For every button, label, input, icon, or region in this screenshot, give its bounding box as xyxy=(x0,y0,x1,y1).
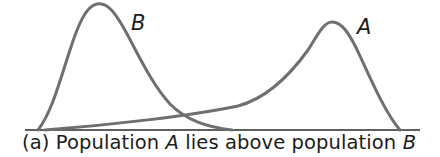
caption-middle: lies above population xyxy=(179,131,403,154)
caption-prefix: (a) Population xyxy=(22,131,166,154)
figure-caption: (a) Population A lies above population B xyxy=(22,133,432,153)
distribution-figure: B A (a) Population A lies above populati… xyxy=(0,0,440,157)
curve-population-a xyxy=(45,22,400,130)
label-b: B xyxy=(131,13,145,34)
caption-variable-a: A xyxy=(166,131,179,154)
caption-variable-b: B xyxy=(403,131,416,154)
label-a: A xyxy=(357,17,371,38)
